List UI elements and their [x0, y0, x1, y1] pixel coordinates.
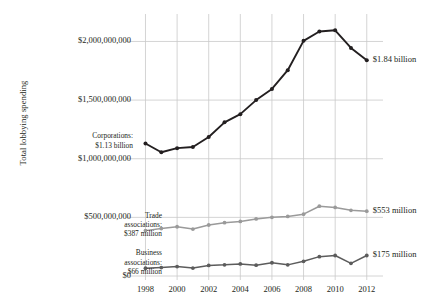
- annotation-business-end: $175 million: [373, 249, 417, 259]
- y-tick-label: $2,000,000,000: [78, 35, 131, 45]
- annotation-line: Business: [124, 248, 162, 257]
- data-point: [238, 262, 242, 266]
- data-point: [286, 68, 290, 72]
- data-point: [270, 261, 274, 265]
- lobbying-spending-chart: Total lobbying spending $0$500,000,000$1…: [0, 0, 446, 306]
- data-point: [238, 112, 242, 116]
- x-tick-label: 2000: [169, 284, 186, 294]
- annotation-corporations-start: Corporations:$1.13 billion: [92, 131, 133, 150]
- data-point: [349, 208, 353, 212]
- data-point: [286, 263, 290, 267]
- data-point: [365, 209, 369, 213]
- data-point: [317, 204, 321, 208]
- data-point: [365, 254, 369, 258]
- x-tick-label: 2010: [327, 284, 344, 294]
- annotation-line: associations:: [124, 220, 162, 229]
- data-point: [175, 265, 179, 269]
- x-tick-label: 2012: [358, 284, 375, 294]
- x-tick-label: 2004: [232, 284, 249, 294]
- data-point: [207, 223, 211, 227]
- y-tick-label: $1,000,000,000: [78, 153, 131, 163]
- data-point: [333, 254, 337, 258]
- data-point: [317, 255, 321, 259]
- data-point: [175, 225, 179, 229]
- data-point: [254, 217, 258, 221]
- annotation-line: associations:: [124, 258, 162, 267]
- data-point: [223, 120, 227, 124]
- data-point: [349, 46, 353, 50]
- data-point: [223, 221, 227, 225]
- data-point: [143, 141, 147, 145]
- annotation-line: Corporations:: [92, 131, 133, 140]
- data-point: [286, 215, 290, 219]
- data-point: [191, 227, 195, 231]
- data-point: [270, 87, 274, 91]
- data-point: [333, 28, 337, 32]
- annotation-trade-start: Tradeassociations:$387 million: [124, 211, 162, 239]
- data-point: [207, 264, 211, 268]
- data-point: [365, 58, 369, 62]
- annotation-line: Trade: [124, 211, 162, 220]
- data-point: [254, 98, 258, 102]
- data-point: [159, 150, 163, 154]
- x-tick-label: 2008: [295, 284, 312, 294]
- data-point: [238, 220, 242, 224]
- annotation-business-start: Businessassociations:$66 million: [124, 248, 162, 276]
- data-point: [254, 263, 258, 267]
- data-point: [270, 215, 274, 219]
- y-tick-label: $1,500,000,000: [78, 94, 131, 104]
- data-point: [175, 146, 179, 150]
- data-point: [302, 212, 306, 216]
- data-point: [302, 39, 306, 43]
- data-point: [302, 259, 306, 263]
- plot-canvas: [0, 0, 446, 306]
- data-point: [191, 266, 195, 270]
- data-point: [207, 135, 211, 139]
- data-point: [223, 263, 227, 267]
- annotation-corporations-end: $1.84 billion: [373, 54, 416, 64]
- annotation-line: $66 million: [124, 267, 162, 276]
- x-tick-label: 1998: [137, 284, 154, 294]
- series-line-corporations: [145, 30, 366, 152]
- data-point: [349, 261, 353, 265]
- annotation-line: $387 million: [124, 229, 162, 238]
- annotation-trade-end: $553 million: [373, 205, 417, 215]
- data-point: [191, 145, 195, 149]
- x-tick-label: 2006: [263, 284, 280, 294]
- annotation-line: $1.13 billion: [92, 141, 133, 150]
- data-point: [333, 206, 337, 210]
- data-point: [317, 29, 321, 33]
- x-tick-label: 2002: [200, 284, 217, 294]
